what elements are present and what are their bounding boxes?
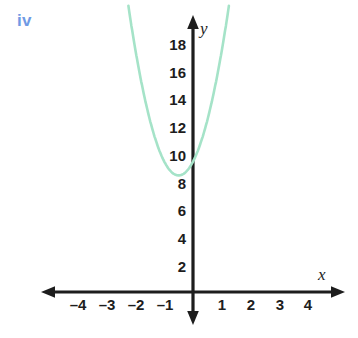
y-tick-label-4: 4 — [178, 231, 186, 246]
x-tick-label-minus4: –4 — [70, 297, 87, 312]
x-tick-label-3: 3 — [276, 297, 284, 312]
x-tick-label-minus1: –1 — [157, 297, 174, 312]
y-tick-label-16: 16 — [169, 65, 186, 80]
x-axis-left-arrowhead — [41, 286, 55, 298]
y-tick-label-8: 8 — [178, 176, 186, 191]
y-axis-bottom-arrowhead — [187, 311, 199, 325]
x-axis-label: x — [318, 266, 326, 283]
y-tick-label-14: 14 — [169, 92, 186, 107]
y-tick-label-6: 6 — [178, 203, 186, 218]
graph-figure: iv 18 16 14 12 10 8 6 4 2 –4 –3 –2 –1 1 … — [0, 0, 358, 338]
y-axis-top-arrowhead — [187, 15, 199, 29]
y-tick-label-10: 10 — [169, 148, 186, 163]
y-tick-label-18: 18 — [169, 37, 186, 52]
x-tick-label-1: 1 — [218, 297, 226, 312]
x-tick-label-minus3: –3 — [99, 297, 116, 312]
x-tick-label-minus2: –2 — [128, 297, 145, 312]
y-tick-label-2: 2 — [178, 259, 186, 274]
y-axis-label: y — [200, 20, 208, 37]
x-axis-right-arrowhead — [331, 286, 345, 298]
y-tick-label-12: 12 — [169, 120, 186, 135]
x-tick-label-2: 2 — [247, 297, 255, 312]
x-tick-label-4: 4 — [304, 297, 312, 312]
